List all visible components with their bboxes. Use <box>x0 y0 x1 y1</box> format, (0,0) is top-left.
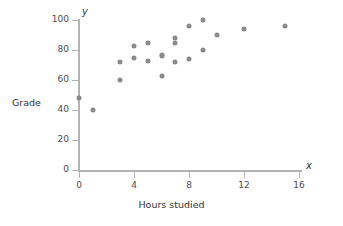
scatter-point <box>214 33 219 38</box>
y-axis-title: Grade <box>12 97 41 108</box>
x-axis-line <box>78 170 302 172</box>
scatter-point <box>77 96 82 101</box>
scatter-point <box>187 24 192 29</box>
y-tick-mark <box>72 110 79 111</box>
y-tick-mark <box>72 140 79 141</box>
scatter-point <box>200 48 205 53</box>
scatter-point <box>159 54 164 59</box>
scatter-point <box>90 108 95 113</box>
y-tick-label: 60 <box>39 74 69 84</box>
y-tick-mark <box>72 80 79 81</box>
y-tick-mark <box>72 170 79 171</box>
scatter-point <box>118 78 123 83</box>
scatter-point <box>173 60 178 65</box>
scatter-point <box>118 60 123 65</box>
x-tick-label: 8 <box>174 180 204 190</box>
y-tick-label: 20 <box>39 134 69 144</box>
y-tick-label: 80 <box>39 44 69 54</box>
scatter-point <box>159 73 164 78</box>
x-tick-mark <box>134 172 135 178</box>
x-tick-mark <box>189 172 190 178</box>
scatter-point <box>132 55 137 60</box>
scatter-plot-figure: 020406080100 0481216 Grade Hours studied… <box>0 0 343 226</box>
y-tick-mark <box>72 20 79 21</box>
y-tick-label: 0 <box>39 164 69 174</box>
scatter-point <box>242 27 247 32</box>
x-tick-label: 12 <box>229 180 259 190</box>
x-tick-mark <box>79 172 80 178</box>
scatter-point <box>145 58 150 63</box>
scatter-point <box>145 40 150 45</box>
scatter-point <box>173 40 178 45</box>
y-tick-mark <box>72 50 79 51</box>
y-tick-label: 100 <box>39 14 69 24</box>
x-tick-label: 0 <box>64 180 94 190</box>
x-tick-label: 4 <box>119 180 149 190</box>
y-axis-symbol: y <box>82 6 88 17</box>
scatter-point <box>200 18 205 23</box>
x-tick-mark <box>299 172 300 178</box>
y-tick-label: 40 <box>39 104 69 114</box>
scatter-point <box>187 57 192 62</box>
x-axis-title: Hours studied <box>0 199 343 210</box>
scatter-point <box>132 43 137 48</box>
x-tick-label: 16 <box>284 180 314 190</box>
scatter-point <box>283 24 288 29</box>
x-tick-mark <box>244 172 245 178</box>
x-axis-symbol: x <box>306 160 312 171</box>
